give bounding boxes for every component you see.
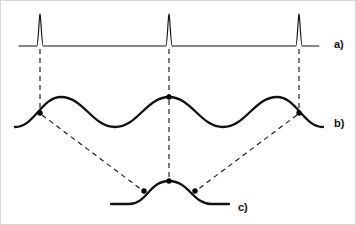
trace-c-single-bump xyxy=(111,181,229,204)
figure-container: a) b) c) xyxy=(0,0,356,225)
node-marker-c-1 xyxy=(141,188,146,193)
trace-a-impulse-train xyxy=(19,14,319,46)
node-marker-c-2 xyxy=(166,178,171,183)
node-marker-c-3 xyxy=(192,188,197,193)
trace-b-label: b) xyxy=(334,117,345,129)
node-marker-b-3 xyxy=(296,110,301,115)
trace-a-label: a) xyxy=(334,38,344,50)
waveform-figure: a) b) c) xyxy=(1,1,356,225)
guide-diagonal-left xyxy=(42,115,142,190)
node-marker-b-2 xyxy=(166,94,171,99)
trace-c-group xyxy=(111,181,229,204)
guides-b-to-c-group xyxy=(42,100,297,190)
node-marker-b-1 xyxy=(37,110,42,115)
trace-a-group xyxy=(19,14,319,46)
guide-diagonal-right xyxy=(197,115,297,190)
trace-c-label: c) xyxy=(238,201,248,213)
